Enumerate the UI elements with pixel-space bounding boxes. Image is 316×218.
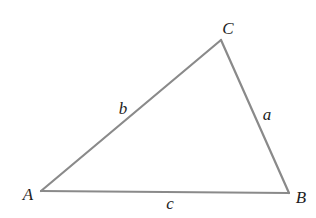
side-c-line bbox=[41, 191, 289, 193]
side-c-label: c bbox=[166, 195, 174, 212]
side-b-line bbox=[41, 40, 221, 191]
vertex-a-label: A bbox=[23, 186, 33, 203]
vertex-c-label: C bbox=[222, 20, 233, 37]
triangle-diagram: C A B a b c bbox=[0, 0, 316, 218]
side-a-line bbox=[221, 40, 289, 193]
side-a-label: a bbox=[263, 106, 272, 123]
side-b-label: b bbox=[119, 100, 128, 117]
vertex-b-label: B bbox=[296, 189, 306, 206]
